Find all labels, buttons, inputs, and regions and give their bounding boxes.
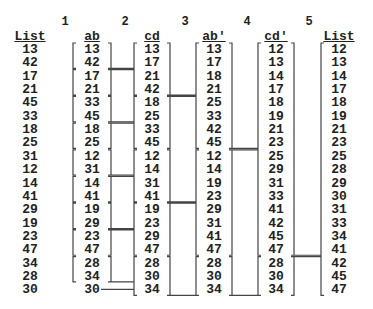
list-value: 30 [144,269,160,282]
list-value: 41 [206,229,222,242]
list-value: 28 [84,256,100,269]
list-value: 30 [331,189,347,202]
list-value: 19 [331,109,347,122]
list-value: 14 [331,69,347,82]
list-value: 33 [22,109,38,122]
list-value: 29 [144,229,160,242]
connector-lines [0,0,373,309]
list-value: 14 [84,176,100,189]
list-value: 29 [84,216,100,229]
list-value: 23 [206,189,222,202]
list-value: 34 [22,256,38,269]
merge-bracket-lines [73,43,324,295]
list-value: 14 [22,176,38,189]
list-value: 42 [22,56,38,69]
list-value: 17 [84,69,100,82]
list-value: 21 [84,83,100,96]
list-value: 19 [144,203,160,216]
list-value: 41 [22,189,38,202]
list-value: 18 [84,123,100,136]
list-value: 28 [144,256,160,269]
list-value: 34 [268,283,284,296]
list-value: 18 [331,96,347,109]
list-value: 14 [144,163,160,176]
list-value: 21 [331,123,347,136]
list-value: 17 [331,83,347,96]
list-value: 45 [22,96,38,109]
list-value: 17 [22,69,38,82]
list-value: 12 [144,149,160,162]
list-value: 12 [84,149,100,162]
list-value: 19 [268,109,284,122]
list-value: 25 [206,96,222,109]
list-value: 29 [22,203,38,216]
list-value: 34 [84,269,100,282]
list-value: 31 [331,203,347,216]
list-value: 25 [84,136,100,149]
list-value: 13 [331,56,347,69]
list-value: 47 [206,243,222,256]
list-value: 42 [268,216,284,229]
list-value: 17 [268,83,284,96]
list-value: 21 [206,83,222,96]
list-value: 47 [84,243,100,256]
list-value: 12 [331,43,347,56]
list-value: 13 [144,43,160,56]
list-value: 23 [22,229,38,242]
list-value: 34 [206,283,222,296]
list-value: 42 [331,256,347,269]
step-number-5: 5 [305,15,312,29]
step-number-2: 2 [121,15,128,29]
list-value: 19 [84,203,100,216]
list-value: 21 [22,83,38,96]
list-value: 28 [206,256,222,269]
list-value: 13 [268,56,284,69]
list-value: 41 [144,189,160,202]
step-number-4: 4 [243,15,250,29]
list-value: 42 [206,123,222,136]
list-value: 13 [22,43,38,56]
list-value: 23 [331,136,347,149]
list-value: 25 [22,136,38,149]
list-value: 45 [84,109,100,122]
list-value: 33 [331,216,347,229]
list-value: 45 [206,136,222,149]
merge-sort-diagram: 12345List1342172145331825311214412919234… [0,0,373,309]
list-value: 30 [268,269,284,282]
list-value: 30 [84,283,100,296]
list-value: 45 [331,269,347,282]
list-value: 33 [268,189,284,202]
list-value: 28 [331,163,347,176]
list-value: 18 [268,96,284,109]
list-value: 31 [84,163,100,176]
list-value: 23 [144,216,160,229]
list-value: 41 [331,243,347,256]
list-value: 33 [84,96,100,109]
list-value: 31 [268,176,284,189]
list-value: 41 [84,189,100,202]
list-value: 47 [144,243,160,256]
list-value: 31 [206,216,222,229]
list-value: 19 [206,176,222,189]
list-value: 25 [331,149,347,162]
list-value: 13 [84,43,100,56]
list-value: 12 [22,163,38,176]
step-number-3: 3 [181,15,188,29]
list-value: 12 [206,149,222,162]
list-value: 33 [206,109,222,122]
list-value: 17 [144,56,160,69]
list-value: 23 [84,229,100,242]
list-value: 47 [268,243,284,256]
list-value: 33 [144,123,160,136]
list-value: 18 [144,96,160,109]
list-value: 18 [206,69,222,82]
list-value: 17 [206,56,222,69]
list-value: 47 [331,283,347,296]
list-value: 29 [331,176,347,189]
list-value: 34 [331,229,347,242]
list-value: 30 [22,283,38,296]
list-value: 29 [206,203,222,216]
list-value: 28 [268,256,284,269]
list-value: 18 [22,123,38,136]
list-value: 42 [84,56,100,69]
